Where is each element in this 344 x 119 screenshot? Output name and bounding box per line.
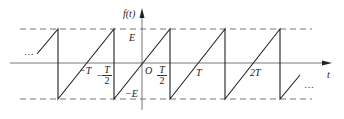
t-axis-arrow-icon xyxy=(322,61,332,66)
tick-label-T: T xyxy=(196,68,202,78)
x-axis-label: t xyxy=(327,70,330,80)
tick-label-neg-half-T: T 2 xyxy=(102,65,112,86)
origin-label: O xyxy=(145,66,152,76)
tick-label-neg-T: −T xyxy=(79,66,91,76)
y-axis-label: f(t) xyxy=(123,9,135,19)
f-axis-arrow-icon xyxy=(140,8,145,18)
lower-level-label: −E xyxy=(125,89,138,99)
upper-level-label: E xyxy=(129,33,135,43)
tick-label-2T: 2T xyxy=(250,68,261,78)
tick-label-half-T: T 2 xyxy=(157,65,167,86)
sawtooth-waveform xyxy=(37,29,300,99)
sawtooth-diagram xyxy=(0,0,344,119)
continuation-right: … xyxy=(304,79,315,90)
continuation-left: … xyxy=(24,46,35,57)
